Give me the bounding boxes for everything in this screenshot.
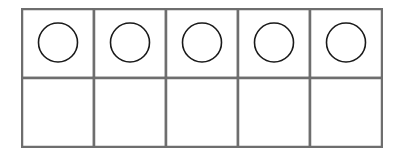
frame-cell [94,78,166,147]
cell-border [310,78,382,147]
ten-frame [21,8,381,146]
frame-cell [166,78,238,147]
ten-frame-grid [21,8,383,148]
frame-cell [310,78,382,147]
cell-border [310,9,382,78]
cell-border [166,78,238,147]
frame-cell [310,9,382,78]
frame-cell [22,78,94,147]
cell-border [22,9,94,78]
frame-cell [238,78,310,147]
frame-cell [238,9,310,78]
frame-cell [94,9,166,78]
cell-border [238,9,310,78]
cell-border [22,78,94,147]
cell-border [238,78,310,147]
cell-border [94,78,166,147]
frame-cell [166,9,238,78]
cell-border [166,9,238,78]
cell-border [94,9,166,78]
frame-cell [22,9,94,78]
